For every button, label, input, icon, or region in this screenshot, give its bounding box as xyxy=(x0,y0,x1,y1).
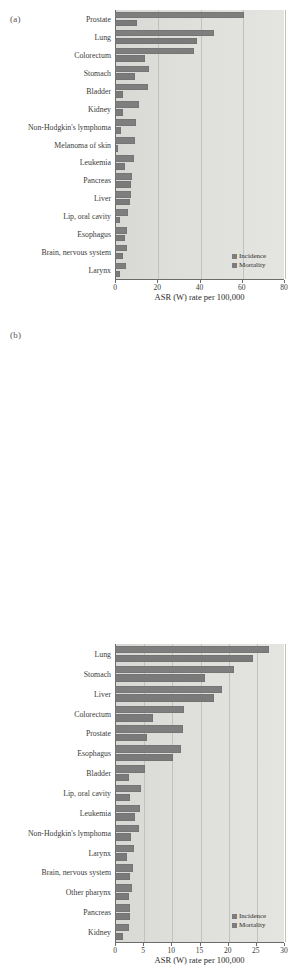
category-label: Kidney xyxy=(88,928,111,937)
gridline xyxy=(229,644,230,942)
x-axis-tick-label: 80 xyxy=(280,283,288,292)
bar-mortality xyxy=(115,933,123,940)
category-label: Lung xyxy=(95,649,111,658)
legend-label: Mortality xyxy=(239,261,265,270)
bar-incidence xyxy=(115,137,135,144)
bar-incidence xyxy=(115,884,132,891)
bar-mortality xyxy=(115,163,125,170)
bar-mortality xyxy=(115,109,123,116)
bar-chart-a: 020406080ASR (W) rate per 100,000Prostat… xyxy=(0,0,298,320)
category-label: Pancreas xyxy=(83,908,111,917)
bar-incidence xyxy=(115,845,134,852)
bar-mortality xyxy=(115,714,153,721)
category-label: Lip, oral cavity xyxy=(63,789,111,798)
bar-incidence xyxy=(115,101,139,108)
bar-incidence xyxy=(115,84,148,91)
bar-incidence xyxy=(115,805,140,812)
category-label: Larynx xyxy=(88,848,111,857)
bar-mortality xyxy=(115,853,127,860)
bar-incidence xyxy=(115,825,139,832)
x-axis-tick-label: 0 xyxy=(113,283,117,292)
bar-incidence xyxy=(115,686,222,693)
bar-incidence xyxy=(115,864,133,871)
bar-mortality xyxy=(115,694,214,701)
bar-mortality xyxy=(115,73,135,80)
bar-incidence xyxy=(115,706,184,713)
x-axis-tick-label: 20 xyxy=(224,946,232,955)
x-axis-tick-label: 15 xyxy=(196,946,204,955)
x-axis-tick-label: 10 xyxy=(168,946,176,955)
chart-panel-b: (b) 051015202530ASR (W) rate per 100,000… xyxy=(0,320,298,668)
x-axis-tick-label: 0 xyxy=(113,946,117,955)
bar-incidence xyxy=(115,227,127,234)
category-label: Pancreas xyxy=(83,176,111,185)
category-label: Prostate xyxy=(86,729,111,738)
bar-mortality xyxy=(115,774,129,781)
bar-incidence xyxy=(115,924,129,931)
bar-mortality xyxy=(115,734,147,741)
bar-mortality xyxy=(115,655,253,662)
bar-incidence xyxy=(115,745,181,752)
bar-incidence xyxy=(115,245,127,252)
category-label: Esophagus xyxy=(77,230,111,239)
category-label: Brain, nervous system xyxy=(41,868,111,877)
x-axis-tick-label: 60 xyxy=(238,283,246,292)
legend-label: Incidence xyxy=(239,252,266,261)
x-axis-title: ASR (W) rate per 100,000 xyxy=(155,955,245,965)
bar-mortality xyxy=(115,754,173,761)
bar-incidence xyxy=(115,209,128,216)
bar-mortality xyxy=(115,833,131,840)
legend-item: Mortality xyxy=(232,261,266,270)
bar-mortality xyxy=(115,893,129,900)
bar-mortality xyxy=(115,127,121,134)
category-label: Leukemia xyxy=(80,808,111,817)
chart-legend: IncidenceMortality xyxy=(232,912,266,930)
bar-incidence xyxy=(115,48,194,55)
legend-label: Incidence xyxy=(239,912,266,921)
category-label: Kidney xyxy=(88,104,111,113)
chart-legend: IncidenceMortality xyxy=(232,252,266,270)
category-label: Colorectum xyxy=(74,50,111,59)
bar-mortality xyxy=(115,873,130,880)
bar-mortality xyxy=(115,55,145,62)
bar-incidence xyxy=(115,119,136,126)
legend-swatch-icon xyxy=(232,263,237,268)
bar-mortality xyxy=(115,38,197,45)
category-label: Lip, oral cavity xyxy=(63,212,111,221)
bar-mortality xyxy=(115,20,137,27)
bar-incidence xyxy=(115,155,134,162)
category-label: Stomach xyxy=(84,669,111,678)
bar-mortality xyxy=(115,199,130,206)
category-label: Liver xyxy=(94,689,111,698)
bar-mortality xyxy=(115,674,205,681)
x-axis-tick-label: 30 xyxy=(280,946,288,955)
x-axis-tick-label: 40 xyxy=(196,283,204,292)
bar-chart-b: 051015202530ASR (W) rate per 100,000Lung… xyxy=(0,640,298,969)
category-label: Non-Hodgkin's lymphoma xyxy=(28,122,111,131)
category-label: Esophagus xyxy=(77,749,111,758)
category-label: Melanoma of skin xyxy=(54,140,111,149)
gridline xyxy=(257,644,258,942)
category-label: Bladder xyxy=(86,769,111,778)
bar-mortality xyxy=(115,145,118,152)
legend-item: Incidence xyxy=(232,912,266,921)
bar-incidence xyxy=(115,12,244,19)
legend-swatch-icon xyxy=(232,914,237,919)
bar-incidence xyxy=(115,785,141,792)
gridline xyxy=(243,10,244,279)
bar-incidence xyxy=(115,666,234,673)
bar-incidence xyxy=(115,30,214,37)
bar-mortality xyxy=(115,253,123,260)
category-label: Prostate xyxy=(86,14,111,23)
legend-swatch-icon xyxy=(232,254,237,259)
bar-incidence xyxy=(115,765,145,772)
gridline xyxy=(285,644,286,942)
bar-incidence xyxy=(115,66,149,73)
x-axis-title: ASR (W) rate per 100,000 xyxy=(155,292,245,302)
bar-mortality xyxy=(115,235,125,242)
bar-mortality xyxy=(115,181,131,188)
category-label: Non-Hodgkin's lymphoma xyxy=(28,828,111,837)
gridline xyxy=(285,10,286,279)
gridline xyxy=(201,10,202,279)
